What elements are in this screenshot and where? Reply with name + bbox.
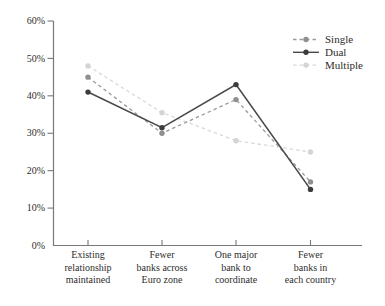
series-line-single xyxy=(88,77,311,182)
x-axis-category-label: Fewerbanks acrossEuro zone xyxy=(137,249,188,285)
y-axis-tick-label: 30% xyxy=(27,127,45,138)
y-axis-tick-label: 10% xyxy=(27,202,45,213)
legend-label-multiple: Multiple xyxy=(325,59,363,71)
series-marker-multiple xyxy=(85,63,90,68)
series-marker-single xyxy=(308,179,313,184)
x-axis-category-label: Existingrelationshipmaintained xyxy=(64,249,111,285)
series-marker-dual xyxy=(233,82,238,87)
series-line-dual xyxy=(88,85,311,190)
series-marker-single xyxy=(159,131,164,136)
y-axis-tick-label: 20% xyxy=(27,165,45,176)
legend-label-dual: Dual xyxy=(325,46,346,58)
legend-marker-multiple xyxy=(303,62,308,67)
series-marker-dual xyxy=(308,187,313,192)
x-axis-category-label: One majorbank tocoordinate xyxy=(215,249,258,285)
series-marker-single xyxy=(233,97,238,102)
x-axis-category-label: Fewerbanks ineach country xyxy=(285,249,336,285)
series-marker-dual xyxy=(85,89,90,94)
chart-canvas: 0%10%20%30%40%50%60%Existingrelationship… xyxy=(0,0,385,306)
legend-marker-single xyxy=(303,37,308,42)
legend-label-single: Single xyxy=(325,33,353,45)
line-chart: 0%10%20%30%40%50%60%Existingrelationship… xyxy=(0,0,385,306)
series-marker-single xyxy=(85,74,90,79)
legend-marker-dual xyxy=(303,50,308,55)
series-marker-multiple xyxy=(233,138,238,143)
series-marker-multiple xyxy=(308,149,313,154)
y-axis-tick-label: 60% xyxy=(27,15,45,26)
y-axis-tick-label: 50% xyxy=(27,53,45,64)
y-axis-tick-label: 40% xyxy=(27,90,45,101)
series-marker-multiple xyxy=(159,110,164,115)
y-axis-tick-label: 0% xyxy=(32,240,45,251)
series-marker-dual xyxy=(159,125,164,130)
